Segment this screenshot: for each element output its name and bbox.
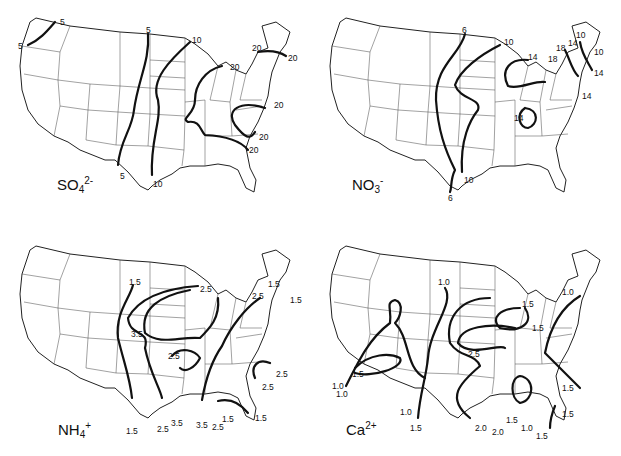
ion-title-no3: NO3- — [352, 175, 383, 195]
isopleth-label: 1.0 — [438, 278, 450, 287]
map-panel-so4: 5 5 5 5 10 10 20 20 20 20 20 20 SO42- — [0, 0, 310, 228]
isopleth-label: 5 — [120, 172, 125, 181]
isopleth-label: 2.0 — [492, 428, 504, 437]
isopleth-label: 10 — [192, 36, 201, 45]
isopleth-label: 5 — [146, 26, 151, 35]
isopleth-label: 2.0 — [475, 424, 487, 433]
isopleth-label: 2.5 — [468, 350, 480, 359]
isopleth-label: 1.5 — [410, 424, 422, 433]
isopleth-label: 2.5 — [262, 383, 274, 392]
isopleth-label: 20 — [288, 54, 297, 63]
isopleth-label: 2.5 — [276, 370, 288, 379]
isopleth-label: 5 — [60, 18, 65, 27]
isopleth-label: 1.0 — [521, 424, 533, 433]
isopleth-label: 10 — [153, 180, 162, 189]
isopleth-label: 3.5 — [131, 330, 143, 339]
isopleth-label: 2.5 — [168, 352, 180, 361]
isopleth-label: 1.5 — [129, 278, 141, 287]
isopleth-label: 1.5 — [536, 432, 548, 441]
ion-title-nh4: NH4+ — [58, 420, 91, 440]
isopleth-label: 1.5 — [506, 416, 518, 425]
isopleth-label: 2.5 — [252, 292, 264, 301]
isopleth-label: 14 — [582, 92, 591, 101]
ion-title-so4: SO42- — [57, 175, 93, 195]
isopleth-label: 20 — [249, 146, 258, 155]
isopleth-label: 6 — [462, 26, 467, 35]
isopleth-label: 1.5 — [562, 410, 574, 419]
isopleth-label: 3.5 — [196, 421, 208, 430]
isopleth-label: 20 — [259, 133, 268, 142]
ion-title-ca: Ca2+ — [346, 420, 377, 440]
isopleth-label: 10 — [594, 48, 603, 57]
isopleth-label: 2.5 — [212, 423, 224, 432]
isopleth-label: 1.5 — [126, 427, 138, 436]
isopleth-label: 10 — [504, 38, 513, 47]
isopleth-label: 1.0 — [400, 408, 412, 417]
isopleth-label: 1.5 — [268, 280, 280, 289]
isopleth-label: 2.5 — [200, 285, 212, 294]
isopleth-label: 10 — [576, 31, 585, 40]
isopleth-label: 14 — [568, 39, 577, 48]
isopleth-label: 1.5 — [290, 296, 302, 305]
isopleth-label: 1.5 — [255, 414, 267, 423]
isopleth-label: 1.0 — [336, 390, 348, 399]
isopleth-label: 20 — [274, 101, 283, 110]
isopleth-label: 20 — [252, 44, 261, 53]
isopleth-label: 20 — [230, 63, 239, 72]
map-panel-no3: 6 6 10 10 14 14 14 14 18 18 14 10 10 NO3… — [310, 0, 620, 228]
isopleth-label: 3.5 — [171, 419, 183, 428]
isopleth-label: 1.5 — [562, 384, 574, 393]
isopleth-label: 14 — [514, 114, 523, 123]
isopleth-label: 5 — [18, 42, 23, 51]
isopleth-label: 2.5 — [157, 425, 169, 434]
isopleth-label: 18 — [556, 44, 565, 53]
isopleth-label: 18 — [548, 55, 557, 64]
isopleth-label: 1.5 — [522, 300, 534, 309]
isopleth-label: 1.0 — [562, 288, 574, 297]
map-panel-ca: 1.0 1.5 1.5 1.0 2.5 1.5 1.0 1.0 1.5 1.0 … — [310, 228, 620, 456]
isopleth-label: 1.5 — [532, 324, 544, 333]
isopleth-label: 14 — [594, 69, 603, 78]
isopleth-label: 14 — [528, 53, 537, 62]
isopleth-label: 1.5 — [352, 370, 364, 379]
isopleth-label: 1.5 — [222, 415, 234, 424]
us-map-so4 — [0, 0, 310, 228]
isopleth-label: 6 — [448, 194, 453, 203]
isopleth-label: 10 — [464, 176, 473, 185]
map-panel-nh4: 1.5 2.5 3.5 2.5 1.5 2.5 1.5 2.5 2.5 1.5 … — [0, 228, 310, 456]
